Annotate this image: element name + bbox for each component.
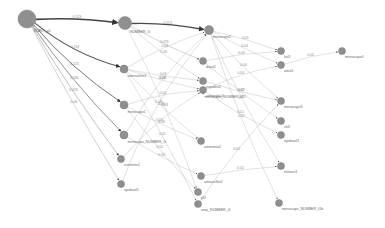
node-circle[interactable] <box>120 101 128 109</box>
node-label: mesocaps_NUMBER_t1 <box>127 140 166 144</box>
node-circle[interactable] <box>278 163 285 170</box>
edge-label: 0.04 <box>241 44 248 48</box>
graph-node[interactable]: nutrients1 <box>118 156 140 168</box>
edge-label: 0.02 <box>159 132 166 136</box>
node-label: fut3 <box>284 55 290 59</box>
node-circle[interactable] <box>18 10 36 28</box>
node-label: amoxicillin2 <box>204 180 223 184</box>
edge: 0.04 <box>212 33 278 98</box>
node-circle[interactable] <box>339 48 346 55</box>
node-circle[interactable] <box>195 201 202 208</box>
edge-label: 0.05 <box>242 36 249 40</box>
node-label: NUMBER_t1 <box>130 30 151 34</box>
node-label: epidural1 <box>124 188 139 192</box>
node-label: amu3 <box>284 69 293 73</box>
node-label: pf2 <box>201 196 206 200</box>
edge-label: 0.194 <box>71 45 80 49</box>
graph-node[interactable]: epidural1 <box>118 181 139 193</box>
node-label: ergodex2 <box>206 85 221 89</box>
node-label: nutrients1 <box>124 163 140 167</box>
graph-node[interactable]: epidural3 <box>278 132 299 144</box>
node-circle[interactable] <box>120 131 128 139</box>
node-label: mesocaps_NUMBER_t2 <box>205 95 244 99</box>
node-label: START_p1 <box>33 29 50 33</box>
node-circle[interactable] <box>278 118 285 125</box>
graph-node[interactable]: nitrous3 <box>278 163 297 175</box>
graph-node[interactable]: mesocaps3 <box>278 98 303 110</box>
node-circle[interactable] <box>118 181 125 188</box>
edge-label: 0.02 <box>237 110 244 114</box>
node-circle[interactable] <box>119 17 132 30</box>
edge: 0.085 <box>33 26 121 131</box>
edge: 0.05 <box>130 27 199 78</box>
node-label: epidural3 <box>284 139 299 143</box>
edge-label: 0.02 <box>238 88 245 92</box>
edge-label: 0.04 <box>161 44 168 48</box>
edge-label: 0.03 <box>238 51 245 55</box>
edge-path <box>36 19 118 23</box>
node-circle[interactable] <box>278 98 285 105</box>
graph-node[interactable]: START_p1 <box>18 10 51 33</box>
edge-label: 0.03 <box>155 100 162 104</box>
edge-label: 0.085 <box>70 76 79 80</box>
graph-node[interactable]: NUMBER_t1 <box>119 17 151 35</box>
node-label: mesocaps2 <box>213 35 231 39</box>
node-circle[interactable] <box>278 132 285 139</box>
node-label: mesocaps_NUMBER_t1b <box>282 207 323 211</box>
node-label: nitrous3 <box>284 170 297 174</box>
edge: 0.02 <box>284 52 337 64</box>
node-label: days2 <box>206 65 216 69</box>
edge-path <box>200 105 278 202</box>
edge-label: 0.076 <box>69 88 78 92</box>
edge-label: 0.03 <box>156 118 163 122</box>
edge: 0.03 <box>127 72 198 138</box>
node-label: ammonia2 <box>204 145 221 149</box>
edge: 0.513 <box>131 21 203 30</box>
edge-label: 0.03 <box>158 153 165 157</box>
node-circle[interactable] <box>205 26 214 35</box>
node-label: mesocaps3 <box>284 105 302 109</box>
edge-label: 0.02 <box>156 145 163 149</box>
node-circle[interactable] <box>200 58 207 65</box>
edge-label: 0.04 <box>240 63 247 67</box>
node-circle[interactable] <box>278 48 285 55</box>
graph-node[interactable]: amu3 <box>278 62 294 74</box>
graph-node[interactable]: mesocaps_NUMBER_t2 <box>202 92 244 99</box>
graph-node[interactable]: amp_NUMBER_t1 <box>195 201 231 213</box>
graph-node[interactable]: mesocaps_NUMBER_t1b <box>276 200 324 212</box>
nodes-layer: START_p1NUMBER_t1mesocaps2adrenaline2mes… <box>18 10 363 212</box>
edge-label: 0.02 <box>234 147 241 151</box>
node-circle[interactable] <box>198 138 205 145</box>
node-circle[interactable] <box>198 173 205 180</box>
node-circle[interactable] <box>278 62 285 69</box>
node-label: mesocaps1 <box>127 110 145 114</box>
graph-node[interactable]: ammonia2 <box>198 138 221 150</box>
edge-label: 0.123 <box>70 62 79 66</box>
node-circle[interactable] <box>120 65 128 73</box>
graph-node[interactable]: sti3 <box>278 118 290 130</box>
edge-label: 0.513 <box>73 15 82 19</box>
graph-node[interactable]: fut3 <box>278 48 291 60</box>
node-circle[interactable] <box>118 156 125 163</box>
process-graph: 0.5130.5130.1940.1230.0850.0760.060.0730… <box>0 0 385 228</box>
edge: 0.513 <box>36 15 118 23</box>
edge-label: 0.02 <box>237 166 244 170</box>
graph-node[interactable]: adrenaline2 <box>120 65 146 78</box>
edge-label: 0.02 <box>307 53 314 57</box>
node-circle[interactable] <box>200 78 207 85</box>
node-label: adrenaline2 <box>127 74 146 78</box>
edge: 0.02 <box>200 105 278 202</box>
node-label: sti3 <box>284 125 290 129</box>
node-label: amp_NUMBER_t1 <box>201 208 231 212</box>
node-circle[interactable] <box>195 189 202 196</box>
edge: 0.03 <box>206 51 276 61</box>
graph-node[interactable]: pf2 <box>195 189 207 201</box>
edge-label: 0.513 <box>163 21 172 25</box>
edge-label: 0.03 <box>237 71 244 75</box>
edge-label: 0.06 <box>71 100 78 104</box>
node-label: mesocaps4 <box>345 55 363 59</box>
edge-label: 0.04 <box>159 76 166 80</box>
node-circle[interactable] <box>276 200 283 207</box>
graph-node[interactable]: mesocaps4 <box>339 48 364 60</box>
edge-label: 0.05 <box>161 50 168 54</box>
